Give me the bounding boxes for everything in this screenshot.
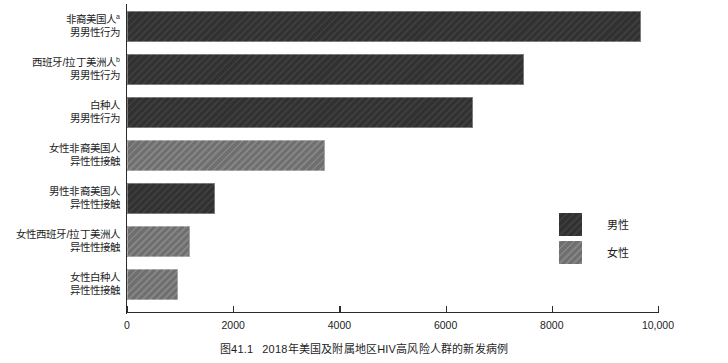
x-tick-label-0: 0 (124, 319, 130, 331)
x-tick-mark-4000 (339, 306, 340, 313)
y-axis-labels: 非裔美国人a男男性行为西班牙/拉丁美洲人b男男性行为白种人男男性行为女性非裔美国… (0, 0, 120, 313)
bar-4 (127, 140, 325, 171)
bar-1 (127, 11, 641, 42)
x-tick-label-6000: 6000 (434, 319, 457, 331)
x-tick-mark-2000 (233, 306, 234, 313)
footnote-marker: a (116, 12, 120, 19)
footnote-marker: b (116, 55, 120, 62)
y-axis-label-1: 非裔美国人a男男性行为 (2, 13, 120, 40)
legend-item-2[interactable]: 女性 (559, 238, 669, 266)
figure-container: 非裔美国人a男男性行为西班牙/拉丁美洲人b男男性行为白种人男男性行为女性非裔美国… (0, 0, 728, 363)
plot-area (127, 0, 658, 313)
y-axis-label-4: 女性非裔美国人异性性接触 (2, 142, 120, 169)
bar-6 (127, 226, 190, 257)
legend-label-2: 女性 (607, 244, 629, 260)
figure-caption: 图41.12018年美国及附属地区HIV高风险人群的新发病例 (0, 340, 728, 356)
y-axis-label-7: 女性白种人异性性接触 (2, 271, 120, 298)
x-tick-label-10,000: 10,000 (642, 319, 674, 331)
legend-swatch-2 (559, 241, 582, 264)
caption-number: 图41.1 (220, 343, 253, 355)
x-tick-label-2000: 2000 (222, 319, 245, 331)
y-axis-label-6: 女性西班牙/拉丁美洲人异性性接触 (2, 228, 120, 255)
x-tick-mark-8000 (552, 306, 553, 313)
x-tick-mark-0 (127, 306, 128, 313)
bar-3 (127, 97, 473, 128)
y-axis-label-5: 男性非裔美国人异性性接触 (2, 185, 120, 212)
bar-5 (127, 183, 215, 214)
bar-2 (127, 54, 524, 85)
x-tick-label-4000: 4000 (328, 319, 351, 331)
x-tick-mark-6000 (446, 306, 447, 313)
legend-item-1[interactable]: 男性 (559, 210, 669, 238)
caption-text: 2018年美国及附属地区HIV高风险人群的新发病例 (262, 343, 508, 355)
x-tick-mark-10,000 (658, 306, 659, 313)
legend-label-1: 男性 (607, 216, 629, 232)
chart-legend: 男性女性 (559, 210, 669, 266)
bar-7 (127, 269, 178, 300)
y-axis-label-3: 白种人男男性行为 (2, 99, 120, 126)
legend-swatch-1 (559, 213, 582, 236)
x-tick-label-8000: 8000 (540, 319, 563, 331)
y-axis-label-2: 西班牙/拉丁美洲人b男男性行为 (2, 56, 120, 83)
